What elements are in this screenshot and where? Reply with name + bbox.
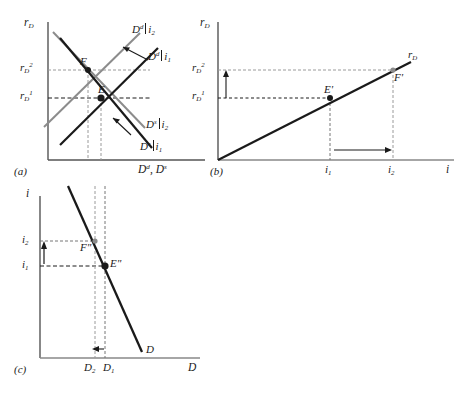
interest-rate-increase-arrow-c bbox=[41, 241, 47, 264]
point-label-F: F bbox=[80, 56, 87, 67]
demand-shift-arrow bbox=[123, 47, 148, 60]
panel-c-y-axis-label: i bbox=[26, 188, 29, 200]
panel-c-xtick-D-1: D1 bbox=[103, 362, 114, 373]
point-F-double-prime-dot bbox=[92, 238, 97, 243]
panel-b-ytick-r-D-1: rD1 bbox=[192, 90, 205, 101]
panel-a-ytick-r-D-1: rD1 bbox=[20, 90, 33, 101]
point-label-F-double-prime: F" bbox=[80, 242, 91, 253]
panel-c: i i2 i1 D2 D1 D F" E" D (c) bbox=[0, 186, 230, 399]
panel-a-x-axis-label: Dd, Ds bbox=[138, 164, 167, 176]
interest-rate-increase-arrow bbox=[334, 147, 392, 153]
panel-c-id: (c) bbox=[14, 364, 26, 375]
point-E-dot bbox=[97, 94, 104, 101]
panel-c-ytick-i-2: i2 bbox=[22, 234, 28, 245]
panel-b-id: (b) bbox=[210, 166, 223, 177]
point-label-E-prime: E' bbox=[324, 84, 333, 95]
panel-b-xtick-i-1: i1 bbox=[325, 164, 331, 175]
panel-c-ytick-i-1: i1 bbox=[22, 259, 28, 270]
panel-a: rD rD2 rD1 Ddi2 Ddi1 Dsi2 Dsi1 F E Dd, D… bbox=[0, 0, 213, 190]
deposits-decrease-arrow bbox=[92, 346, 104, 352]
point-label-E: E bbox=[98, 84, 105, 95]
panel-c-x-axis-label: D bbox=[188, 362, 196, 374]
panel-a-id: (a) bbox=[14, 166, 27, 177]
panel-a-y-axis-label: rD bbox=[24, 17, 34, 29]
panel-b-ytick-r-D-2: rD2 bbox=[192, 62, 205, 73]
point-F-dot bbox=[85, 67, 91, 73]
rD-increase-arrow bbox=[218, 66, 238, 106]
point-label-F-prime: F' bbox=[394, 72, 403, 83]
curve-label-rD-schedule: rD bbox=[408, 49, 417, 60]
panel-c-xtick-D-2: D2 bbox=[84, 362, 95, 373]
point-E-prime-dot bbox=[327, 95, 333, 101]
curve-label-demand-i1: Ddi1 bbox=[148, 50, 171, 62]
curve-label-supply-i1: Dsi1 bbox=[140, 140, 162, 152]
panel-a-ytick-r-D-2: rD2 bbox=[20, 62, 33, 73]
curve-label-supply-i2: Dsi2 bbox=[146, 118, 168, 130]
panel-b-x-axis-label: i bbox=[446, 164, 449, 176]
point-E-double-prime-dot bbox=[101, 262, 108, 269]
curve-label-demand-i2: Ddi2 bbox=[132, 23, 155, 35]
panel-b-y-axis-label: rD bbox=[200, 17, 210, 29]
point-label-E-double-prime: E" bbox=[110, 258, 121, 269]
panel-b-xtick-i-2: i2 bbox=[388, 164, 394, 175]
curve-label-D: D bbox=[146, 344, 154, 355]
rD-schedule-line bbox=[218, 62, 411, 160]
panel-b: rD rD2 rD1 i1 i2 rD E' F' i (b) bbox=[196, 0, 466, 190]
